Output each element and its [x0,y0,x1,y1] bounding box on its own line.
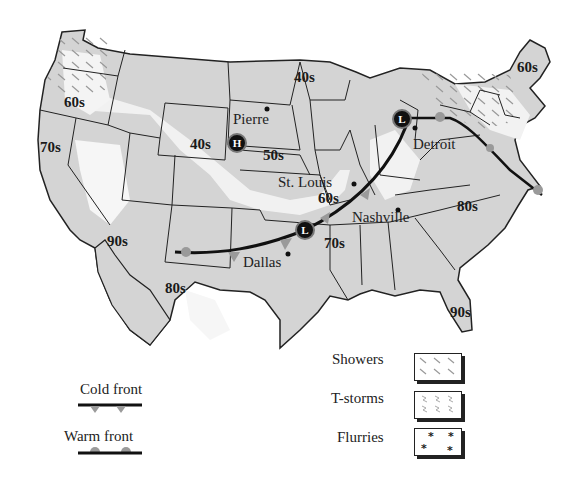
tstorms-legend-label: T-storms [331,390,384,407]
temp-label-wyoming: 40s [190,136,211,152]
temp-label-missouri: 60s [318,190,339,206]
cold-front-legend-symbol [78,405,142,413]
flurries-legend-label: Flurries [337,429,384,446]
temp-label-northwest: 60s [64,94,85,110]
svg-text:L: L [398,113,405,125]
temp-label-texas: 80s [165,280,186,296]
cold-front-legend-label: Cold front [80,381,142,398]
city-label-pierre: Pierre [233,111,269,127]
city-label-dallas: Dallas [243,254,281,270]
snowflake-pattern-icon: ** ** [415,429,461,455]
city-label-nashville: Nashville [352,209,410,225]
temp-label-maine: 60s [517,59,538,75]
temp-label-minnesota: 40s [294,69,315,85]
tstorms-legend-swatch [414,391,462,419]
clear-band-texas [185,290,230,340]
svg-text:*: * [447,444,453,455]
temp-label-north-carolina: 80s [457,198,478,214]
svg-text:*: * [448,430,454,443]
city-label-st-louis: St. Louis [278,174,332,190]
warm-front-legend-symbol [78,447,142,453]
svg-text:H: H [233,137,242,149]
lightning-pattern-icon [415,392,461,418]
showers-legend-label: Showers [332,351,384,368]
temp-label-arkansas: 70s [324,235,345,251]
high-pressure-marker: H [228,134,246,152]
temp-label-florida: 90s [450,304,471,320]
weather-map: H L L Pierre St. Louis Nashville Dallas … [0,0,579,482]
showers-northwest [45,32,110,100]
temp-label-nebraska: 50s [263,147,284,163]
warm-front-legend-label: Warm front [64,428,133,445]
city-label-detroit: Detroit [413,136,456,152]
low-pressure-marker-oklahoma: L [296,221,314,239]
svg-text:L: L [301,224,308,236]
showers-legend-swatch [414,353,462,381]
temp-label-california: 70s [40,139,61,155]
temp-label-arizona: 90s [107,233,128,249]
svg-text:*: * [428,430,434,443]
flurries-legend-swatch: ** ** [414,428,462,456]
low-pressure-marker-michigan: L [393,110,411,128]
showers-pattern-icon [415,354,461,380]
svg-text:*: * [421,442,427,455]
